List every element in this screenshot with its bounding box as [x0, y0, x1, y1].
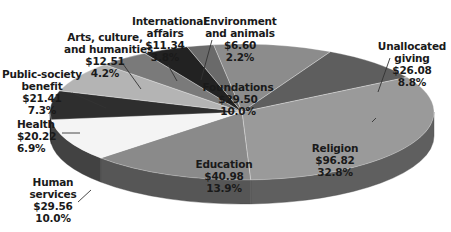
label-education: Education $40.98 13.9% — [189, 158, 259, 194]
label-health: Health $20.22 6.9% — [17, 118, 77, 154]
label-unallocated: Unallocated giving $26.08 8.8% — [372, 40, 451, 88]
label-env: Environment and animals $6.60 2.2% — [203, 15, 277, 63]
label-human: Human services $29.56 10.0% — [22, 176, 84, 224]
label-foundations: Foundations $29.50 10.0% — [198, 81, 278, 117]
label-religion: Religion $96.82 32.8% — [295, 142, 375, 178]
label-intl: International affairs $11.34 3.8% — [132, 15, 198, 63]
